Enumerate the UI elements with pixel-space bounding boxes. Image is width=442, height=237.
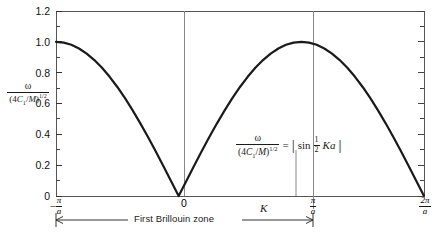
plot-frame [56, 11, 424, 196]
y-tick-label-0.8: 0.8 [24, 68, 50, 79]
y-den-prefix: (4 [9, 94, 17, 104]
brillouin-zone-label: First Brillouin zone [130, 214, 218, 224]
y-tick-label-1.0: 1.0 [24, 37, 50, 48]
dispersion-curve [56, 42, 424, 196]
y-tick-label-0.2: 0.2 [24, 160, 50, 171]
equation-half-den: 2 [314, 146, 320, 155]
x-tick-label-minus-pi-over-a: − π a [40, 196, 72, 217]
equation-abs-close: | [338, 138, 341, 153]
y-axis-label-numerator: ω [7, 80, 48, 93]
y-tick-label-0.4: 0.4 [24, 129, 50, 140]
x-tick-2-fraction: π a [310, 196, 317, 217]
y-den-M: M [28, 94, 36, 104]
eq-den-prefix: (4 [238, 147, 246, 157]
x-tick-label-pi-over-a: π a [303, 196, 323, 217]
equation-abs-open: | [292, 138, 295, 153]
y-axis-label: ω (4C1/M)1/2 [2, 80, 54, 106]
y-axis-label-fraction: ω (4C1/M)1/2 [7, 80, 48, 106]
x-tick-0-fraction: π a [56, 196, 63, 217]
equation-one-half: 1 2 [314, 136, 320, 155]
y-axis-label-denominator: (4C1/M)1/2 [7, 93, 48, 107]
y-major-ticks [56, 11, 62, 196]
equation-lhs-fraction: ω (4C1/M)1/2 [236, 132, 279, 159]
y-tick-label-1.2: 1.2 [24, 6, 50, 17]
y-right-ticks [418, 11, 424, 196]
y-den-exponent: 1/2 [39, 93, 47, 99]
x-tick-0-den: a [56, 207, 63, 217]
equation-annotation: ω (4C1/M)1/2 = | sin 1 2 Ka | [236, 132, 341, 159]
x-tick-2-den: a [310, 207, 317, 217]
equation-Ka: Ka [323, 140, 336, 151]
eq-den-exponent: 1/2 [269, 145, 277, 152]
x-tick-3-den: a [419, 207, 430, 217]
equation-denominator: (4C1/M)1/2 [236, 145, 279, 159]
x-tick-label-2pi-over-a: 2π a [412, 196, 438, 217]
equation-equals: = [282, 140, 288, 151]
equation-sin: sin [298, 140, 311, 151]
eq-den-M: M [258, 147, 266, 157]
x-tick-label-zero: 0 [174, 197, 194, 209]
brillouin-dispersion-figure: 1.2 1.0 0.8 0.6 0.4 0.2 0 ω (4C1/M)1/2 −… [0, 0, 442, 237]
x-axis-label: K [260, 203, 267, 214]
x-tick-3-fraction: 2π a [419, 196, 430, 217]
equation-numerator: ω [236, 132, 279, 145]
interior-vertical-lines [184, 11, 313, 209]
